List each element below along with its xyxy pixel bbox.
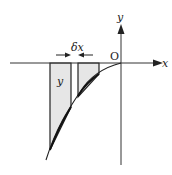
y-axis-arrow-icon [118,24,125,34]
delta-x-label: δx [71,41,85,54]
diagram: δx y O x y [0,0,172,175]
strip-height-label: y [56,75,64,88]
x-axis-label: x [162,57,169,70]
diagram-svg: δx y O x y [0,0,172,175]
origin-label: O [110,50,119,63]
y-axis-label: y [116,11,124,24]
